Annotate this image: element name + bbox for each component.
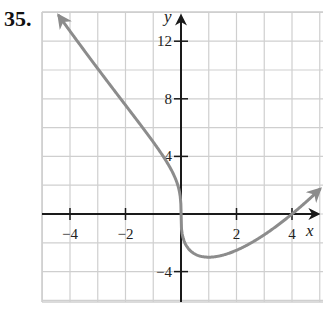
x-tick-label: −2 (118, 226, 134, 242)
y-tick-label: 12 (157, 33, 172, 49)
x-axis-label: x (305, 221, 314, 240)
y-tick-label: −4 (156, 264, 172, 280)
x-tick-label: 4 (288, 226, 296, 242)
x-tick-label: 2 (233, 226, 241, 242)
x-tick-label: −4 (62, 226, 78, 242)
axes (42, 16, 318, 302)
function-graph: −4−2241284−4 x y (0, 0, 323, 316)
y-tick-label: 8 (165, 91, 173, 107)
y-axis-label: y (162, 7, 172, 26)
